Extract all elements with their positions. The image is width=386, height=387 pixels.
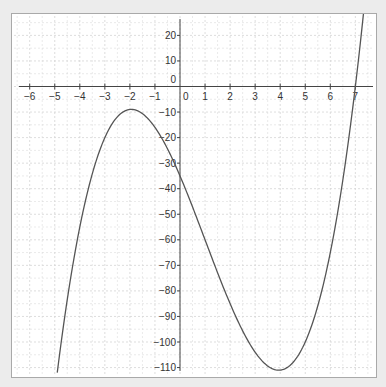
y-tick-label: 0 — [170, 74, 176, 85]
x-tick-label: 5 — [302, 91, 308, 102]
y-tick-label: −80 — [159, 285, 176, 296]
x-tick-label: 0 — [183, 91, 189, 102]
x-tick-label: −3 — [99, 91, 111, 102]
y-tick-label: −40 — [159, 183, 176, 194]
y-tick-label: 20 — [165, 30, 177, 41]
x-tick-label: 3 — [252, 91, 258, 102]
y-tick-label: 10 — [165, 55, 177, 66]
y-tick-label: −10 — [159, 107, 176, 118]
x-tick-label: 2 — [227, 91, 233, 102]
x-tick-label: −1 — [149, 91, 161, 102]
y-tick-label: −110 — [154, 362, 176, 373]
chart-frame: −6−5−4−3−2−10123456720100−10−20−30−40−50… — [11, 13, 377, 378]
x-tick-label: −6 — [24, 91, 36, 102]
x-tick-label: −2 — [124, 91, 136, 102]
axes — [19, 19, 373, 371]
grid-lines — [14, 16, 374, 376]
x-tick-label: 6 — [328, 91, 334, 102]
x-tick-label: 4 — [277, 91, 283, 102]
x-tick-label: −4 — [74, 91, 86, 102]
y-tick-label: −50 — [159, 209, 176, 220]
x-tick-label: −5 — [49, 91, 61, 102]
function-plot: −6−5−4−3−2−10123456720100−10−20−30−40−50… — [12, 14, 378, 379]
x-tick-label: 1 — [202, 91, 208, 102]
y-tick-label: −90 — [159, 311, 176, 322]
function-curve — [57, 14, 364, 373]
y-tick-label: −60 — [159, 234, 176, 245]
y-tick-label: −100 — [153, 337, 176, 348]
y-tick-label: −70 — [159, 260, 176, 271]
